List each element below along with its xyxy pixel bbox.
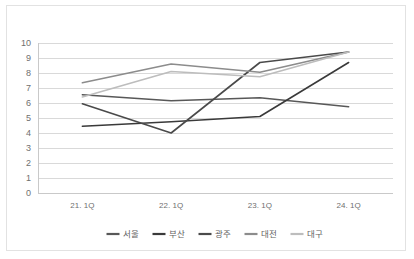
y-tick-label: 9 bbox=[26, 53, 31, 63]
y-tick-label: 10 bbox=[21, 38, 31, 48]
chart-plot-area: 109876543210 21. 1Q22. 1Q23. 1Q24. 1Q 서울… bbox=[7, 6, 407, 252]
y-tick-label: 4 bbox=[26, 128, 31, 138]
legend-label: 부산 bbox=[169, 229, 185, 239]
y-tick-label: 1 bbox=[26, 173, 31, 183]
chart-frame: 109876543210 21. 1Q22. 1Q23. 1Q24. 1Q 서울… bbox=[6, 5, 406, 251]
legend-label: 대구 bbox=[307, 229, 323, 239]
y-tick-label: 2 bbox=[26, 158, 31, 168]
legend-item-대전[interactable]: 대전 bbox=[245, 229, 277, 239]
x-axis-tick-labels: 21. 1Q22. 1Q23. 1Q24. 1Q bbox=[70, 201, 360, 210]
y-tick-label: 8 bbox=[26, 68, 31, 78]
y-tick-label: 7 bbox=[26, 83, 31, 93]
legend-item-부산[interactable]: 부산 bbox=[153, 229, 185, 239]
line-chart: 109876543210 21. 1Q22. 1Q23. 1Q24. 1Q 서울… bbox=[7, 6, 407, 252]
y-axis-tick-labels: 109876543210 bbox=[21, 38, 31, 198]
chart-legend: 서울부산광주대전대구 bbox=[107, 229, 323, 239]
legend-label: 광주 bbox=[215, 229, 231, 239]
y-tick-label: 6 bbox=[26, 98, 31, 108]
y-tick-label: 5 bbox=[26, 113, 31, 123]
legend-item-대구[interactable]: 대구 bbox=[291, 229, 323, 239]
gridlines bbox=[38, 43, 393, 194]
legend-label: 대전 bbox=[261, 229, 277, 239]
y-tick-label: 3 bbox=[26, 143, 31, 153]
y-tick-label: 0 bbox=[26, 188, 31, 198]
legend-item-서울[interactable]: 서울 bbox=[107, 229, 139, 239]
legend-label: 서울 bbox=[123, 229, 139, 239]
data-series-lines bbox=[82, 52, 348, 133]
x-tick-label: 21. 1Q bbox=[70, 201, 94, 210]
x-tick-label: 23. 1Q bbox=[248, 201, 272, 210]
series-line-서울 bbox=[82, 95, 348, 107]
x-tick-label: 22. 1Q bbox=[159, 201, 183, 210]
series-line-광주 bbox=[82, 52, 348, 133]
legend-item-광주[interactable]: 광주 bbox=[199, 229, 231, 239]
x-tick-label: 24. 1Q bbox=[337, 201, 361, 210]
